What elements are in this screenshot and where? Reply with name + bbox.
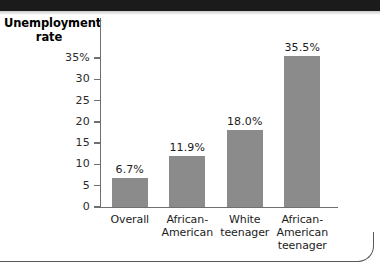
y-axis-title-line2: rate [4, 31, 94, 45]
bar[interactable] [284, 56, 320, 207]
x-category-label-line: African- [268, 213, 336, 226]
y-tick-label-wrap: 30 [48, 72, 90, 86]
y-tick-label-wrap: 35% [48, 51, 90, 65]
chart-figure: Unemployment rate 05101520253035% 6.7%11… [0, 0, 380, 270]
y-tick-label: 25 [76, 94, 90, 107]
y-tick-label: 20 [76, 115, 90, 128]
y-tick-label-wrap: 5 [48, 179, 90, 193]
bar[interactable] [227, 130, 263, 207]
bar-value-label: 11.9% [147, 141, 227, 154]
y-tick-mark [94, 185, 101, 186]
y-axis-title: Unemployment rate [4, 17, 94, 44]
y-tick-label-wrap: 10 [48, 157, 90, 171]
y-tick-mark [94, 121, 101, 122]
bar[interactable] [169, 156, 205, 207]
page-bottom-rule [0, 232, 374, 262]
y-tick-label: 35% [65, 51, 90, 64]
y-tick-mark [94, 100, 101, 101]
y-tick-label-wrap: 15 [48, 136, 90, 150]
y-tick-mark [94, 79, 101, 80]
bar-chart-plot: Unemployment rate 05101520253035% 6.7%11… [0, 0, 380, 270]
bar-value-label: 18.0% [205, 115, 285, 128]
y-tick-label: 0 [83, 200, 90, 213]
y-tick-mark [94, 57, 101, 58]
x-axis-line [100, 207, 338, 208]
bar-value-label: 35.5% [262, 41, 342, 54]
y-tick-label: 5 [83, 179, 90, 192]
y-tick-label: 30 [76, 72, 90, 85]
y-tick-label: 15 [76, 136, 90, 149]
y-tick-label-wrap: 0 [48, 200, 90, 214]
y-tick-mark [94, 206, 101, 207]
bar-value-label: 6.7% [90, 163, 170, 176]
y-axis-line [100, 18, 101, 208]
y-tick-label-wrap: 20 [48, 115, 90, 129]
y-tick-label-wrap: 25 [48, 94, 90, 108]
y-tick-label: 10 [76, 157, 90, 170]
bar[interactable] [112, 178, 148, 207]
y-tick-mark [94, 142, 101, 143]
y-axis-title-line1: Unemployment [4, 17, 94, 31]
